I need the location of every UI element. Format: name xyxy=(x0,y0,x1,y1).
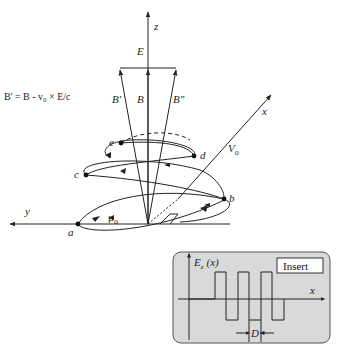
b-double-prime-label: B" xyxy=(173,93,185,105)
e-field-label: E xyxy=(136,45,144,57)
point-a xyxy=(76,222,81,227)
v0-label: Vo xyxy=(228,142,239,157)
y-axis-label: y xyxy=(24,205,30,217)
b-vectors: B' B B" xyxy=(112,70,185,224)
trajectory-points: a b c d e xyxy=(68,136,235,238)
y-axis: y xyxy=(10,205,230,224)
point-e-label: e xyxy=(109,136,114,148)
point-e xyxy=(119,141,124,146)
z-axis-label: z xyxy=(153,20,159,32)
insert-panel: Insert Ez(x) x D xyxy=(173,252,330,343)
b-double-prime-vector xyxy=(148,70,176,224)
b-prime-label: B' xyxy=(112,93,122,105)
electron-helix-diagram: z E B' B B" B' = B - v₀ × E/c x Vo y xyxy=(0,0,338,359)
b-label: B xyxy=(137,93,144,105)
point-c xyxy=(84,173,89,178)
point-c-label: c xyxy=(74,168,79,180)
formula: B' = B - v₀ × E/c xyxy=(4,91,71,102)
insert-period-label: D xyxy=(250,327,259,339)
helix-trajectory xyxy=(78,133,230,230)
point-b-label: b xyxy=(229,192,235,204)
insert-title: Insert xyxy=(283,260,308,272)
x-axis-label: x xyxy=(261,105,267,117)
point-a-label: a xyxy=(68,226,74,238)
insert-x-label: x xyxy=(309,284,315,296)
point-b xyxy=(222,197,227,202)
point-d xyxy=(192,154,197,159)
point-d-label: d xyxy=(200,149,206,161)
b-prime-vector xyxy=(120,70,148,224)
